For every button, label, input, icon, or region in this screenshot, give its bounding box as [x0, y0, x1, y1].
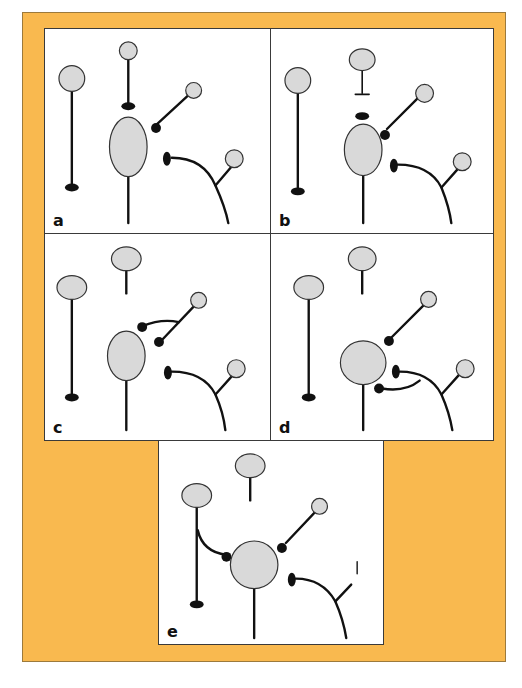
target-neuron — [340, 341, 386, 385]
neuron-lower-right — [225, 150, 243, 168]
neuron-upper-right — [186, 82, 202, 98]
panel-label-e: e — [167, 624, 178, 640]
panel-c-diagram — [45, 234, 270, 440]
target-neuron — [230, 541, 278, 589]
neuron-upper-right — [312, 498, 328, 514]
panel-e: e — [158, 440, 384, 645]
panel-label-b: b — [279, 213, 290, 229]
target-neuron — [107, 331, 145, 381]
neuron-left — [294, 276, 324, 300]
neuron-left — [182, 484, 212, 508]
neuron-top — [119, 42, 137, 60]
neuron-upper-right — [421, 291, 437, 307]
sprouted-terminal — [221, 552, 231, 562]
target-neuron — [109, 117, 147, 176]
panel-d: d — [270, 233, 494, 441]
neuron-top — [349, 49, 375, 71]
panel-label-a: a — [53, 213, 64, 229]
panel-e-diagram — [159, 441, 383, 644]
panel-c: c — [44, 233, 271, 441]
target-neuron — [344, 124, 382, 175]
panel-d-diagram — [271, 234, 493, 440]
neuron-upper-right — [191, 292, 207, 308]
panel-label-c: c — [53, 420, 62, 436]
neuron-lower-right — [456, 360, 474, 378]
neuron-top — [235, 454, 265, 478]
panel-b: b — [270, 28, 494, 234]
neuron-upper-right — [416, 84, 434, 102]
detached-terminal — [355, 112, 369, 120]
sprouted-terminal — [374, 384, 384, 394]
neuron-lower-right — [227, 360, 245, 378]
panel-a-diagram — [45, 29, 270, 233]
panel-b-diagram — [271, 29, 493, 233]
panel-a: a — [44, 28, 271, 234]
neuron-lower-right — [453, 153, 471, 171]
neuron-left — [59, 66, 85, 92]
sprouted-terminal — [137, 322, 147, 332]
neuron-top — [348, 247, 376, 271]
neuron-left — [285, 68, 311, 94]
panel-label-d: d — [279, 420, 290, 436]
neuron-top — [111, 247, 141, 271]
neuron-left — [57, 276, 87, 300]
